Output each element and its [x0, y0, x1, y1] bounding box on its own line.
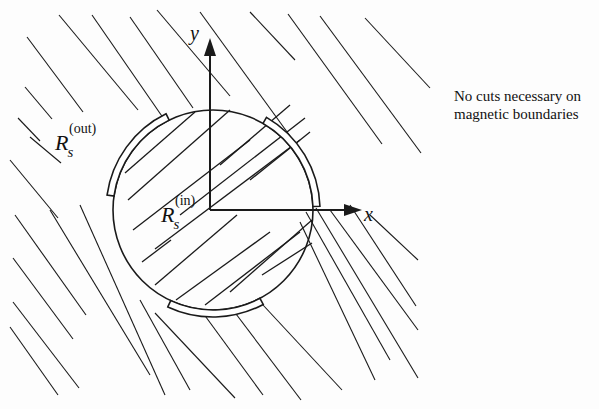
- hatch-line: [80, 205, 165, 395]
- hatch-line: [10, 160, 58, 218]
- y-axis-label: y: [190, 22, 199, 45]
- hatch-line: [13, 258, 73, 339]
- hatch-line: [128, 110, 230, 200]
- hatch-line: [18, 118, 40, 141]
- hatch-line: [50, 210, 150, 375]
- x-axis-arrowhead-icon: [344, 204, 362, 216]
- hatch-line: [316, 208, 418, 378]
- hatch-line: [27, 37, 83, 112]
- x-axis-label: x: [364, 203, 373, 226]
- hatch-line: [262, 243, 312, 275]
- hatch-line: [320, 16, 421, 153]
- hatch-line: [203, 313, 263, 395]
- region-outer-subscript: s: [67, 144, 73, 160]
- magnetic-boundary-diagram: [0, 0, 599, 409]
- region-inner-subscript: s: [173, 216, 179, 232]
- hatch-line: [142, 240, 171, 262]
- hatch-line: [263, 305, 342, 390]
- boundary-segment: [168, 298, 263, 317]
- hatch-line: [230, 220, 312, 292]
- hatch-line: [155, 313, 235, 398]
- hatch-line: [140, 300, 190, 390]
- boundary-segment: [107, 114, 169, 196]
- hatch-line: [10, 327, 58, 395]
- hatch-line: [15, 215, 86, 315]
- hatch-line: [25, 87, 52, 119]
- hatch-line: [130, 17, 193, 108]
- region-inner-superscript: (in): [175, 193, 195, 209]
- region-inner-label: Rs(in): [161, 202, 221, 242]
- diagram-canvas: y x Rs(out) Rs(in) No cuts necessary on …: [0, 0, 599, 409]
- boundary-note-line-1: No cuts necessary on: [454, 87, 581, 105]
- hatch-line: [350, 205, 416, 306]
- hatch-line: [250, 12, 295, 60]
- hatch-line: [233, 310, 301, 400]
- y-axis-arrowhead-icon: [204, 38, 216, 56]
- region-outer-superscript: (out): [69, 121, 96, 137]
- region-outer-label: Rs(out): [55, 130, 115, 170]
- hatch-line: [365, 18, 430, 88]
- hatch-line: [370, 215, 418, 260]
- boundary-note-line-2: magnetic boundaries: [454, 105, 581, 123]
- hatch-line: [288, 14, 382, 144]
- boundary-note: No cuts necessary on magnetic boundaries: [454, 87, 581, 123]
